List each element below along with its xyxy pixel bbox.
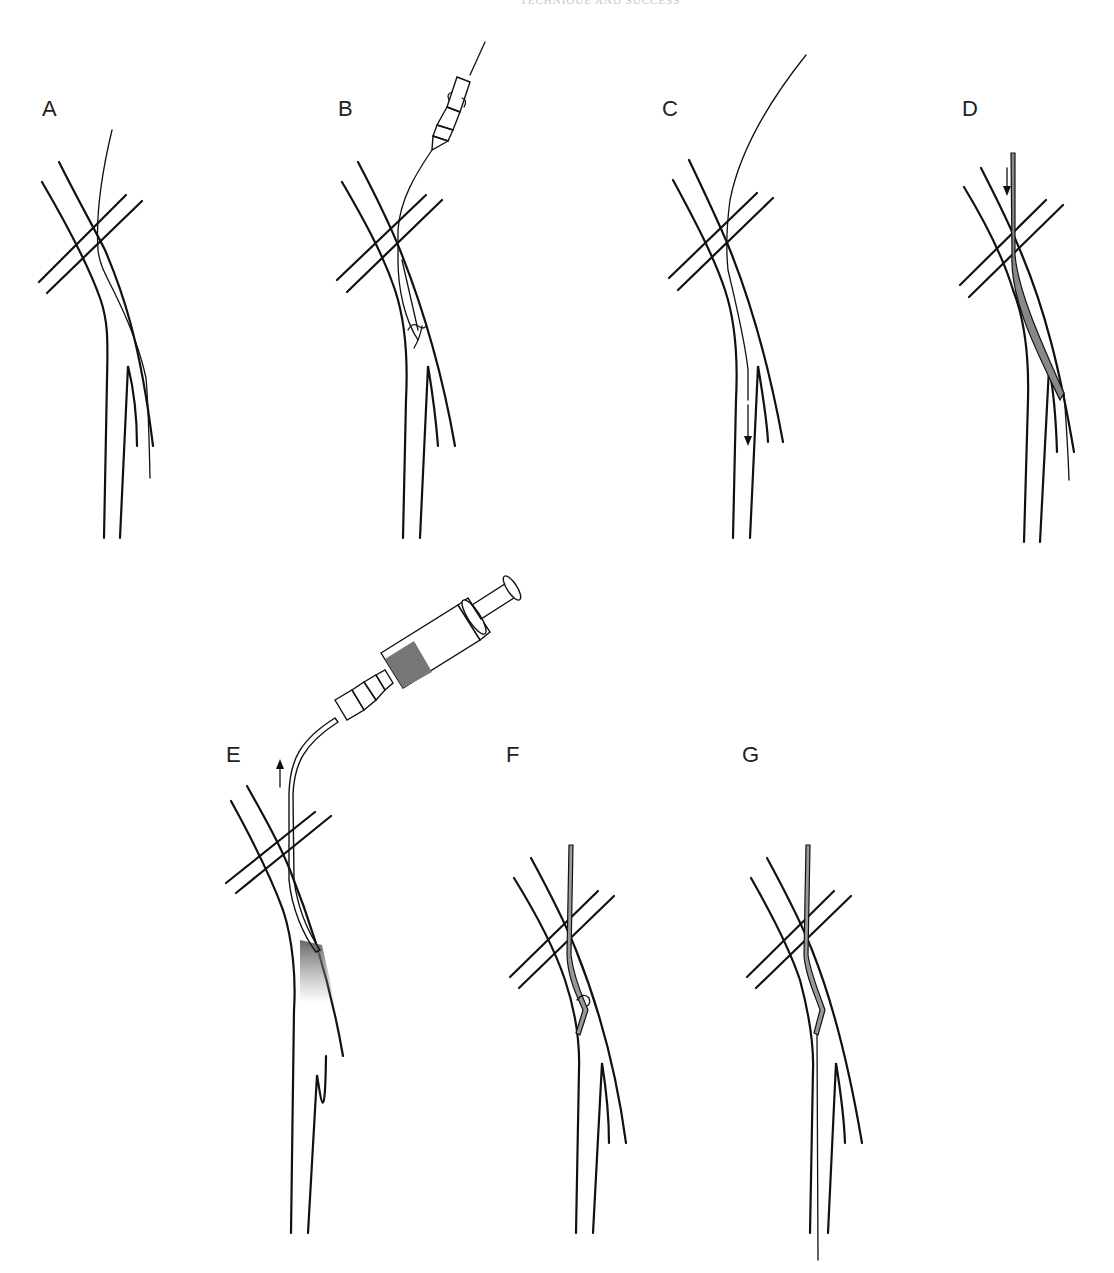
panel-e [226, 574, 524, 1233]
guidewire-c [727, 55, 806, 400]
needle-hub-icon [432, 77, 470, 150]
guidewire-g [817, 1035, 818, 1260]
panel-b [337, 42, 485, 538]
panel-d [960, 153, 1074, 542]
panel-c [669, 55, 806, 538]
guidewire-b-top [470, 42, 485, 75]
contrast-spray [300, 940, 335, 1003]
panel-g [747, 845, 862, 1260]
figure-canvas [0, 0, 1114, 1273]
catheter-e [289, 718, 338, 952]
guidewire-b [398, 150, 432, 340]
angled-catheter-f [567, 845, 588, 1035]
panel-a [39, 130, 153, 538]
syringe-icon [335, 574, 524, 720]
panel-f [510, 845, 626, 1233]
